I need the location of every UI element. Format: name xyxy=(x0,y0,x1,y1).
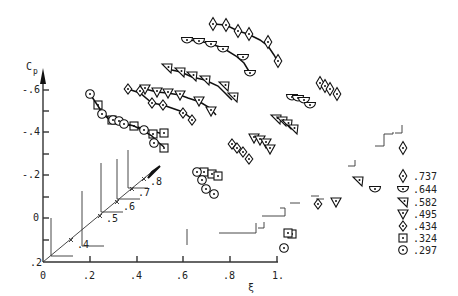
depth-tick-label: .5 xyxy=(106,213,118,224)
left-triangle-dot-icon xyxy=(398,198,408,207)
y-axis-arrow-icon xyxy=(40,68,46,84)
series-582 xyxy=(162,64,298,134)
half-circle-dot-icon xyxy=(398,187,409,193)
legend-item: .297 xyxy=(399,245,437,256)
legend-label: .434 xyxy=(413,221,437,232)
cp-distribution-chart: C p -.6 -.4 -.2 0 .2 0 .2 .4 .6 .8 1. ξ … xyxy=(0,0,458,296)
y-tick-label: 0 xyxy=(33,212,39,223)
depth-tick-label: .6 xyxy=(123,201,135,212)
legend-item: .324 xyxy=(399,233,437,244)
x-axis: 0 .2 .4 .6 .8 1. ξ xyxy=(40,256,284,293)
y-tick-label: -.6 xyxy=(22,84,40,95)
y-tick-label: -.2 xyxy=(22,169,40,180)
legend-item: .644 xyxy=(398,184,438,195)
circle-dot-icon xyxy=(399,246,408,255)
y-axis-label-sub: p xyxy=(33,67,38,76)
diamond-dot-icon xyxy=(399,170,407,183)
tail-markers xyxy=(284,142,407,238)
y-tick-label: .2 xyxy=(30,257,42,268)
x-tick-label: .6 xyxy=(176,270,188,281)
legend-label: .737 xyxy=(413,171,437,182)
diamond-dot-icon xyxy=(399,221,407,231)
legend-item: .434 xyxy=(399,221,437,232)
depth-tick-label: .7 xyxy=(138,187,150,198)
section-reference-lines xyxy=(51,125,402,256)
y-axis-label: C xyxy=(26,61,32,72)
x-tick-label: 1. xyxy=(272,270,284,281)
down-triangle-dot-icon xyxy=(398,210,408,219)
legend-item: .495 xyxy=(398,209,437,220)
x-tick-label: .2 xyxy=(83,270,95,281)
x-tick-label: .8 xyxy=(223,270,235,281)
series-737 xyxy=(209,18,341,101)
legend-label: .324 xyxy=(413,233,437,244)
series-297 xyxy=(86,90,289,253)
y-tick-label: -.4 xyxy=(22,126,40,137)
legend-label: .644 xyxy=(413,184,437,195)
legend-label: .582 xyxy=(413,197,437,208)
x-axis-label: ξ xyxy=(248,282,254,293)
legend-item: .582 xyxy=(398,197,437,208)
depth-tick-label: .4 xyxy=(77,239,89,250)
depth-tick-label: .8 xyxy=(150,176,162,187)
x-tick-label: 0 xyxy=(40,270,46,281)
legend-label: .495 xyxy=(413,209,437,220)
depth-axis: .4 .5 .6 .7 .8 xyxy=(43,166,162,262)
legend-item: .737 xyxy=(399,170,437,183)
legend-label: .297 xyxy=(413,245,437,256)
legend: .737 .644 .582 .495 .434 .324 .297 xyxy=(398,170,438,257)
x-tick-label: .4 xyxy=(130,270,142,281)
y-axis: C p -.6 -.4 -.2 0 .2 xyxy=(22,61,49,268)
square-dot-icon xyxy=(399,234,407,242)
